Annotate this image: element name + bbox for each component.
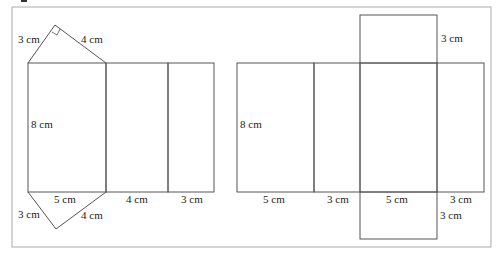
label-rect3-width-r: 5 cm <box>386 193 408 205</box>
label-rect3-width: 3 cm <box>181 193 203 205</box>
face-2 <box>314 63 360 192</box>
cut-off-caption-mark <box>21 0 27 2</box>
label-top-flap: 3 cm <box>441 32 463 44</box>
label-top-tri-right: 4 cm <box>81 33 103 45</box>
rectangular-prism-net <box>237 15 484 239</box>
label-left-height: 8 cm <box>31 118 53 130</box>
label-bot-tri-right: 4 cm <box>81 209 103 221</box>
label-rect2-width: 4 cm <box>126 193 148 205</box>
label-bottom-flap: 3 cm <box>440 209 462 221</box>
right-angle-marker <box>52 29 60 35</box>
face-4 <box>437 63 484 192</box>
face-4cm <box>106 63 168 192</box>
label-bot-tri-left: 3 cm <box>18 208 40 220</box>
face-3cm <box>168 63 214 192</box>
label-bot-tri-base: 5 cm <box>54 193 76 205</box>
label-rect2-width-r: 3 cm <box>327 193 349 205</box>
face-3 <box>360 63 437 192</box>
label-top-tri-left: 3 cm <box>18 33 40 45</box>
top-flap <box>360 15 437 63</box>
label-right-height: 8 cm <box>240 118 262 130</box>
label-rect4-width-r: 3 cm <box>450 193 472 205</box>
label-rect1-width: 5 cm <box>263 193 285 205</box>
